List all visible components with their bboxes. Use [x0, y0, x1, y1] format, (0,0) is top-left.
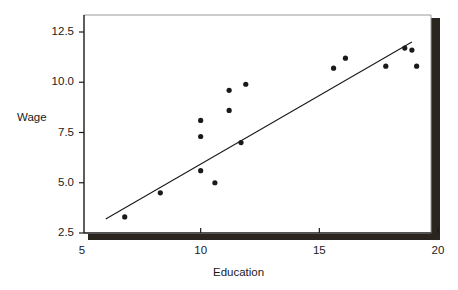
data-point	[227, 88, 232, 93]
data-point	[212, 180, 217, 185]
y-tick-label: 2.5	[0, 227, 74, 239]
data-point	[383, 64, 388, 69]
data-point	[158, 190, 163, 195]
plot-panel	[84, 15, 431, 233]
x-tick-label: 10	[181, 245, 221, 257]
data-point	[122, 214, 127, 219]
data-point	[227, 108, 232, 113]
scatter-plot-figure: 2.55.07.510.012.55101520 Wage Education	[0, 0, 458, 290]
data-point	[198, 168, 203, 173]
x-tick-label: 15	[299, 245, 339, 257]
data-point	[198, 134, 203, 139]
y-axis-ticks	[79, 32, 84, 233]
shadow-right	[431, 18, 440, 240]
data-point	[402, 45, 407, 50]
x-tick-label: 20	[418, 245, 458, 257]
data-point	[331, 66, 336, 71]
y-tick-label: 12.5	[0, 26, 74, 38]
data-point	[343, 56, 348, 61]
x-tick-label: 5	[62, 245, 102, 257]
y-tick-label: 7.5	[0, 127, 74, 139]
shadow-bottom	[88, 234, 440, 240]
data-point	[414, 64, 419, 69]
x-axis-title: Education	[213, 267, 264, 279]
data-point	[243, 82, 248, 87]
y-tick-label: 5.0	[0, 177, 74, 189]
data-point	[238, 140, 243, 145]
y-axis-title: Wage	[17, 112, 47, 124]
y-tick-label: 10.0	[0, 76, 74, 88]
data-point	[409, 47, 414, 52]
data-point	[198, 118, 203, 123]
